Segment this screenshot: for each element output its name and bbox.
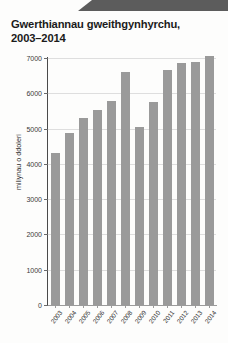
y-axis-tick-label: 2000 <box>26 231 42 238</box>
x-axis-tick-label: 2008 <box>119 309 133 325</box>
x-axis-tick-label: 2012 <box>175 309 189 325</box>
x-axis-tick-mark <box>195 305 196 308</box>
decorative-header-band <box>78 0 228 11</box>
x-axis-tick-mark <box>139 305 140 308</box>
x-axis-tick-label: 2013 <box>189 309 203 325</box>
x-axis-tick-label: 2004 <box>63 309 77 325</box>
x-axis-tick-label: 2006 <box>91 309 105 325</box>
bar <box>149 102 158 305</box>
x-axis-tick-label: 2011 <box>162 309 176 324</box>
x-axis-tick-mark <box>97 305 98 308</box>
x-axis-tick-label: 2007 <box>105 309 119 325</box>
bar <box>177 63 186 305</box>
x-axis-tick-mark <box>209 305 210 308</box>
x-axis-tick-mark <box>153 305 154 308</box>
y-axis-tick-mark <box>44 305 48 306</box>
y-axis-tick-mark <box>44 129 48 130</box>
chart-title: Gwerthiannau gweithgynhyrchu, 2003–2014 <box>11 18 216 45</box>
bar <box>205 56 214 305</box>
bar <box>135 127 144 305</box>
x-axis-line <box>47 305 217 306</box>
y-axis-tick-label: 4000 <box>26 160 42 167</box>
x-axis-tick-mark <box>167 305 168 308</box>
y-axis-tick-mark <box>44 270 48 271</box>
x-axis-tick-label: 2009 <box>133 309 147 325</box>
x-axis-tick-label: 2003 <box>49 309 63 325</box>
x-axis-tick-label: 2005 <box>77 309 91 325</box>
y-axis-tick-mark <box>44 199 48 200</box>
x-axis-tick-mark <box>83 305 84 308</box>
y-axis-tick-label: 7000 <box>26 55 42 62</box>
x-axis-tick-mark <box>125 305 126 308</box>
bar <box>65 133 74 305</box>
bar <box>79 118 88 305</box>
chart-title-line2: 2003–2014 <box>11 32 216 46</box>
plot-area: 01000200030004000500060007000 2003200420… <box>48 58 216 305</box>
bar <box>107 101 116 305</box>
x-axis-tick-mark <box>55 305 56 308</box>
chart-page: Gwerthiannau gweithgynhyrchu, 2003–2014 … <box>0 0 228 343</box>
x-axis-tick-label: 2010 <box>147 309 161 325</box>
x-axis-tick-mark <box>69 305 70 308</box>
y-axis-tick-label: 3000 <box>26 196 42 203</box>
bar <box>51 153 60 305</box>
y-axis-tick-label: 6000 <box>26 90 42 97</box>
y-axis-tick-label: 0 <box>38 302 42 309</box>
chart-title-line1: Gwerthiannau gweithgynhyrchu, <box>11 18 180 30</box>
bar <box>121 72 130 305</box>
y-axis-tick-label: 5000 <box>26 125 42 132</box>
y-axis-tick-mark <box>44 93 48 94</box>
x-axis-tick-label: 2014 <box>203 309 217 325</box>
gridline <box>48 58 216 59</box>
bar <box>93 110 102 305</box>
x-axis-tick-mark <box>181 305 182 308</box>
y-axis-tick-mark <box>44 164 48 165</box>
y-axis-tick-mark <box>44 58 48 59</box>
y-axis-tick-mark <box>44 234 48 235</box>
y-axis-tick-label: 1000 <box>26 266 42 273</box>
x-axis-tick-mark <box>111 305 112 308</box>
bar <box>191 62 200 305</box>
bar <box>163 70 172 305</box>
y-axis-label: miliynau o ddoleri <box>14 134 23 190</box>
